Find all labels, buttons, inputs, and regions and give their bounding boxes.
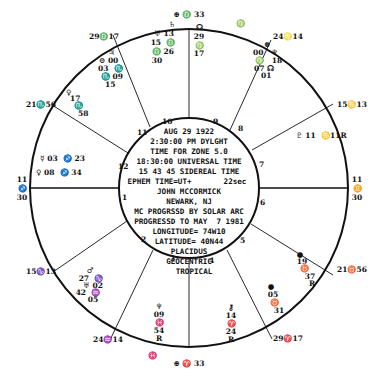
- retrograde-marker: R: [156, 334, 163, 343]
- retrograde-marker: R: [228, 335, 235, 344]
- house-number-4: 4: [209, 256, 214, 265]
- house-number-12: 12: [118, 162, 128, 171]
- planet-group-house5: ● 05 ♉ 31: [268, 282, 284, 315]
- mercury-position: ☿ 03 ♐ 23: [40, 154, 85, 163]
- venus-position: ♀ 08 ♐ 34: [36, 168, 82, 177]
- planet-group-house9: ⊗ 00 ♆ ♍ 18 07 ☊ 01: [253, 40, 282, 80]
- cusp-label-dsc-degree: 11: [352, 175, 362, 184]
- house-number-10: 10: [162, 117, 172, 126]
- cusp-line-8: [252, 104, 333, 150]
- planet-group-house1: ☿ 03 ♐ 23 ♀ 08 ♐ 34: [36, 154, 85, 177]
- cusp-label-9: 24♌14: [273, 32, 303, 41]
- planet-position-line: 01: [261, 71, 271, 80]
- center-line-longitude: LONGITUDE= 74W10: [152, 227, 226, 236]
- planet-position-line: 15 ♎: [151, 38, 176, 47]
- house-number-1: 1: [122, 193, 127, 202]
- cusp-label-6: 21♉56: [337, 265, 367, 274]
- pluto-position: ♇ 11 ♋11R: [296, 131, 347, 140]
- center-line-date: AUG 29 1922: [164, 127, 214, 136]
- planet-group-house4: ⚷ 14 ♈ 24 R: [226, 303, 236, 344]
- center-line-sidereal: 15 43 45 SIDEREAL TIME: [139, 167, 240, 176]
- planet-position-line: 30: [152, 56, 162, 65]
- uranus-position: ♅ 13: [154, 29, 174, 38]
- planet-position-line: 15: [105, 80, 115, 89]
- cusp-label-2: 15♑13: [26, 267, 56, 276]
- cusp-label-asc-sign: ♐: [18, 184, 27, 193]
- center-line-house-system: PLACIDUS: [171, 247, 208, 256]
- center-line-zodiac: TROPICAL: [176, 267, 213, 276]
- center-line-place: NEWARK, NJ: [166, 197, 212, 206]
- pisces-sign-marker: ♓: [148, 351, 157, 360]
- node-glyph: ☊: [196, 23, 203, 32]
- planet-group-house6: ● 19 ♉ 37 R: [297, 250, 316, 288]
- cusp-label-dsc-sign: ♊: [353, 184, 362, 193]
- house-number-8: 8: [238, 124, 243, 133]
- cusp-line-2: [53, 221, 127, 272]
- house-number-2: 2: [141, 235, 146, 244]
- cusp-label-3: 24♒14: [93, 335, 123, 344]
- center-line-progressed-date: PROGRESSD TO MAY 7 1981: [134, 217, 244, 226]
- cusp-line-6: [251, 224, 333, 275]
- planet-position-line: 31: [274, 306, 284, 315]
- house-number-7: 7: [259, 160, 264, 169]
- retrograde-marker: R: [309, 279, 316, 288]
- center-line-zone: TIME FOR ZONE 5.0: [150, 147, 228, 156]
- cusp-label-12: 21♏56: [26, 100, 56, 109]
- center-line-ut: 18:30:00 UNIVERSAL TIME: [136, 157, 242, 166]
- planet-position-line: 05: [88, 295, 98, 304]
- cusp-label-asc-degree: 11: [17, 175, 27, 184]
- planet-position-line: 58: [78, 109, 88, 118]
- cusp-label-asc-minute: 30: [17, 193, 27, 202]
- center-line-progressed-method: MC PROGRSSD BY SOLAR ARC: [134, 207, 244, 216]
- cusp-label-8: 15♋13: [337, 100, 367, 109]
- planet-group-house12: ♀ 17 ♏ 58: [66, 88, 88, 118]
- planet-group-house10-left: ♄ ♅ 13 15 ♎ ♎ 26 30: [151, 20, 176, 65]
- house-number-5: 5: [240, 236, 245, 245]
- cusp-label-dsc-minute: 30: [352, 193, 362, 202]
- cusp-line-12: [52, 105, 128, 153]
- planet-group-house3: ♆ 09 ♓ 54 R: [154, 302, 164, 343]
- cusp-line-11: [113, 35, 150, 127]
- center-line-name: JOHN MCCORMICK: [157, 187, 221, 196]
- center-line-time: 2:30:00 PM DYLGHT: [150, 137, 228, 146]
- saturn-glyph: ♄: [169, 20, 176, 29]
- center-line-ephem: EPHEM TIME=UT+ 22sec: [128, 177, 247, 186]
- planet-group-house2: ♂ 27 ♑ ♅ 02 42 ♒ 05: [76, 266, 104, 304]
- horoscope-wheel: AUG 29 1922 2:30:00 PM DYLGHT TIME FOR Z…: [0, 0, 378, 374]
- cusp-line-3: [110, 250, 153, 340]
- planet-position-line: 17: [194, 49, 204, 58]
- cusp-label-11: 29♎17: [89, 32, 119, 41]
- planet-position-line: 29: [194, 32, 204, 41]
- planet-group-house10-right: ☊ 29 ♍ 17: [194, 23, 204, 58]
- house-number-3: 3: [170, 254, 175, 263]
- house-number-9: 9: [213, 117, 218, 126]
- planet-position-line: ♎ 26: [152, 47, 174, 56]
- cusp-label-5: 29♈17: [273, 334, 303, 343]
- center-line-latitude: LATITUDE= 40N44: [155, 237, 224, 246]
- house-number-11: 11: [137, 128, 147, 137]
- virgo-sign-marker: ♍: [236, 19, 245, 28]
- house-number-6: 6: [260, 198, 265, 207]
- cusp-label-mc: ⊕ ♎ 33: [174, 10, 205, 19]
- cusp-label-ic: ⊕ ♈ 33: [174, 359, 205, 368]
